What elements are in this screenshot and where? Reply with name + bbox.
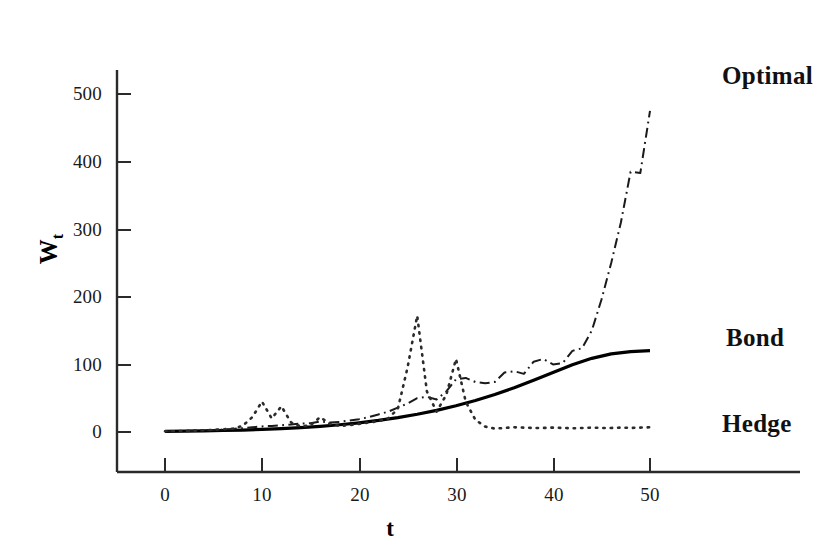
series-line-hedge xyxy=(165,316,650,432)
plot-canvas xyxy=(0,0,840,558)
y-tick-label-400: 400 xyxy=(40,151,102,173)
x-tick-marks xyxy=(165,458,650,472)
x-axis-title: t xyxy=(386,516,394,542)
series-label-optimal: Optimal xyxy=(722,62,813,90)
x-tick-label-10: 10 xyxy=(242,484,282,506)
x-tick-label-50: 50 xyxy=(630,484,670,506)
leader-bond xyxy=(668,336,718,352)
y-axis-title: Wt xyxy=(35,206,67,292)
x-tick-label-40: 40 xyxy=(534,484,574,506)
y-axis-title-wrap: Wt xyxy=(16,215,86,285)
x-tick-label-20: 20 xyxy=(340,484,380,506)
y-tick-marks xyxy=(117,94,131,432)
x-tick-label-30: 30 xyxy=(437,484,477,506)
data-series-layer xyxy=(165,78,718,431)
leader-hedge xyxy=(684,424,716,428)
series-label-hedge: Hedge xyxy=(722,410,792,438)
y-tick-label-0: 0 xyxy=(40,421,102,443)
x-axis-title-wrap: t xyxy=(0,516,840,542)
series-label-bond: Bond xyxy=(726,324,784,352)
x-tick-label-0: 0 xyxy=(145,484,185,506)
chart-figure: 500 400 300 200 100 0 0 10 20 30 40 50 W… xyxy=(0,0,840,558)
series-line-optimal xyxy=(165,111,650,431)
leader-optimal xyxy=(676,78,712,84)
y-tick-label-100: 100 xyxy=(40,354,102,376)
y-axis-title-subscript: t xyxy=(49,234,66,239)
y-axis-title-base: W xyxy=(35,239,62,264)
y-tick-label-500: 500 xyxy=(40,83,102,105)
